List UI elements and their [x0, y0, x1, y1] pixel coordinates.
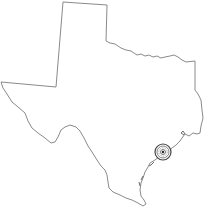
texas-outline: [1, 2, 203, 206]
texas-map: [0, 0, 211, 208]
location-marker: [155, 144, 171, 160]
